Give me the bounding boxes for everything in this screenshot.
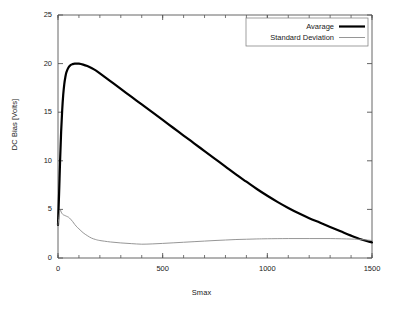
y-tick-label: 10 — [26, 156, 52, 165]
chart-figure: DC Bias [Volts] Smax AvarageStandard Dev… — [0, 0, 403, 309]
x-tick-label: 500 — [143, 264, 183, 273]
x-tick-label: 1000 — [247, 264, 287, 273]
legend-label-avarage: Avarage — [306, 22, 334, 31]
x-axis-major-ticks — [58, 15, 372, 258]
y-axis-major-ticks — [58, 15, 372, 258]
y-axis-label: DC Bias [Volts] — [10, 75, 19, 175]
data-series-group — [58, 64, 372, 245]
series-line-standard-deviation — [58, 210, 372, 244]
x-axis-label: Smax — [0, 288, 403, 297]
y-tick-label: 0 — [26, 253, 52, 262]
x-tick-label: 1500 — [352, 264, 392, 273]
chart-legend: AvarageStandard Deviation — [246, 18, 368, 46]
plot-canvas: AvarageStandard Deviation — [0, 0, 403, 309]
y-tick-label: 5 — [26, 204, 52, 213]
y-tick-label: 20 — [26, 59, 52, 68]
plot-frame — [58, 15, 372, 258]
y-tick-label: 25 — [26, 10, 52, 19]
x-tick-label: 0 — [38, 264, 78, 273]
series-line-avarage — [58, 64, 372, 243]
y-tick-label: 15 — [26, 107, 52, 116]
legend-label-standard-deviation: Standard Deviation — [270, 33, 334, 42]
x-axis-minor-ticks — [58, 15, 372, 258]
